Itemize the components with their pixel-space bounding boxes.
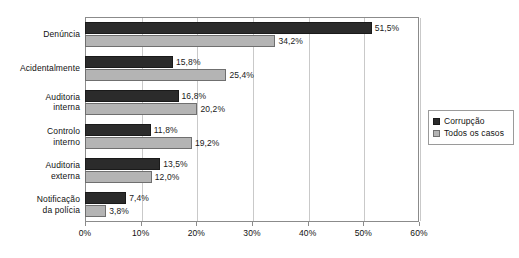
bar-light-5[interactable]: [85, 171, 152, 183]
category-label-5: Auditoriaexterna: [0, 160, 80, 181]
x-tick-label: 50%: [355, 228, 372, 238]
bar-group: 15,8%25,4%: [85, 56, 419, 84]
category-label-line: externa: [0, 171, 80, 182]
category-label-line: Auditoria: [0, 160, 80, 171]
bar-value-label: 7,4%: [129, 192, 149, 204]
bar-value-label: 13,5%: [163, 158, 188, 170]
cut-off-text-above-figure: [0, 0, 519, 3]
legend-label: Corrupção: [444, 116, 485, 126]
x-tick-label: 30%: [243, 228, 260, 238]
x-axis: 0%10%20%30%40%50%60%: [85, 222, 419, 242]
x-tick-mark: [196, 222, 197, 226]
bar-row: 16,8%20,2%: [85, 85, 419, 119]
bar-dark-4[interactable]: [85, 124, 151, 136]
x-tick-label: 60%: [410, 228, 427, 238]
category-label-line: da polícia: [0, 205, 80, 216]
legend-swatch-icon: [433, 130, 440, 137]
x-tick-label: 10%: [132, 228, 149, 238]
bar-group: 51,5%34,2%: [85, 22, 419, 50]
category-label-2: Acidentalmente: [0, 63, 80, 74]
bar-value-label: 3,8%: [109, 205, 129, 217]
bar-value-label: 12,0%: [155, 171, 180, 183]
x-tick-label: 20%: [188, 228, 205, 238]
x-tick-mark: [419, 222, 420, 226]
bar-value-label: 34,2%: [278, 35, 303, 47]
legend-swatch-icon: [433, 118, 440, 125]
y-axis-category-labels: DenúnciaAcidentalmenteAuditoriainternaCo…: [0, 17, 80, 222]
bar-row: 13,5%12,0%: [85, 154, 419, 188]
bar-light-2[interactable]: [85, 69, 226, 81]
category-label-line: interno: [0, 137, 80, 148]
category-label-line: Denúncia: [0, 29, 80, 40]
bar-value-label: 11,8%: [154, 124, 178, 136]
bar-dark-6[interactable]: [85, 192, 126, 204]
category-label-line: Auditoria: [0, 92, 80, 103]
bar-chart-figure: DenúnciaAcidentalmenteAuditoriainternaCo…: [0, 0, 519, 258]
category-label-1: Denúncia: [0, 29, 80, 40]
bar-light-3[interactable]: [85, 103, 197, 115]
x-tick-mark: [141, 222, 142, 226]
category-label-line: Notificação: [0, 194, 80, 205]
bar-value-label: 25,4%: [229, 69, 254, 81]
bar-light-1[interactable]: [85, 35, 275, 47]
bar-row: 7,4%3,8%: [85, 188, 419, 222]
bar-row: 15,8%25,4%: [85, 51, 419, 85]
bar-dark-5[interactable]: [85, 158, 160, 170]
bar-value-label: 51,5%: [375, 22, 400, 34]
legend-label: Todos os casos: [444, 128, 504, 138]
legend-item-1[interactable]: Corrupção: [433, 116, 509, 126]
category-label-line: Controlo: [0, 126, 80, 137]
bar-light-4[interactable]: [85, 137, 192, 149]
x-tick-label: 40%: [299, 228, 316, 238]
bar-rows: 51,5%34,2%15,8%25,4%16,8%20,2%11,8%19,2%…: [85, 17, 419, 222]
bar-value-label: 19,2%: [195, 137, 220, 149]
bar-dark-2[interactable]: [85, 56, 173, 68]
bar-value-label: 15,8%: [176, 56, 201, 68]
x-tick-mark: [85, 222, 86, 226]
bar-group: 7,4%3,8%: [85, 192, 419, 220]
bar-row: 11,8%19,2%: [85, 120, 419, 154]
category-label-4: Controlointerno: [0, 126, 80, 147]
gridline-60pct: [420, 18, 421, 221]
bar-group: 11,8%19,2%: [85, 124, 419, 152]
category-label-line: Acidentalmente: [0, 63, 80, 74]
chart-legend: CorrupçãoTodos os casos: [428, 110, 514, 145]
bar-dark-3[interactable]: [85, 90, 179, 102]
x-tick-label: 0%: [79, 228, 92, 238]
x-tick-mark: [363, 222, 364, 226]
category-label-6: Notificaçãoda polícia: [0, 194, 80, 215]
bar-row: 51,5%34,2%: [85, 17, 419, 51]
bar-group: 13,5%12,0%: [85, 158, 419, 186]
bar-value-label: 20,2%: [200, 103, 225, 115]
x-tick-mark: [308, 222, 309, 226]
bar-value-label: 16,8%: [182, 90, 207, 102]
category-label-line: interna: [0, 102, 80, 113]
bar-light-6[interactable]: [85, 205, 106, 217]
category-label-3: Auditoriainterna: [0, 92, 80, 113]
bar-dark-1[interactable]: [85, 22, 372, 34]
bar-group: 16,8%20,2%: [85, 90, 419, 118]
x-tick-mark: [252, 222, 253, 226]
legend-item-2[interactable]: Todos os casos: [433, 128, 509, 138]
